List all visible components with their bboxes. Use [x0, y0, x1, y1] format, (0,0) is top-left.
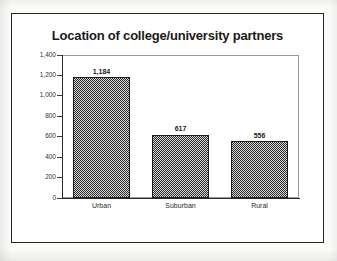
- x-axis-line: [62, 198, 300, 199]
- bar[interactable]: [152, 135, 209, 198]
- y-tick-label: 200: [16, 174, 56, 181]
- y-tick-mark: [57, 95, 62, 96]
- y-tick-mark: [57, 116, 62, 117]
- scanned-page: Location of college/university partners …: [0, 0, 337, 261]
- y-tick-mark: [57, 55, 62, 56]
- chart-frame: Location of college/university partners …: [11, 13, 324, 243]
- bar-group[interactable]: 556: [231, 55, 288, 198]
- category-label: Rural: [220, 202, 299, 209]
- y-tick-mark: [57, 157, 62, 158]
- y-axis: 02004006008001,0001,2001,400: [12, 14, 56, 244]
- x-axis-category-labels: UrbanSuburbanRural: [62, 202, 299, 216]
- bar[interactable]: [231, 141, 288, 198]
- y-tick-mark: [57, 177, 62, 178]
- bar-value-label: 617: [152, 125, 209, 132]
- bar[interactable]: [73, 77, 130, 198]
- y-tick-mark: [57, 75, 62, 76]
- y-tick-label: 0: [16, 195, 56, 202]
- y-tick-mark: [57, 198, 62, 199]
- bar-value-label: 1,184: [73, 68, 130, 75]
- bar-group[interactable]: 1,184: [73, 55, 130, 198]
- y-tick-label: 1,000: [16, 92, 56, 99]
- category-label: Suburban: [141, 202, 220, 209]
- bar-value-label: 556: [231, 132, 288, 139]
- category-label: Urban: [62, 202, 141, 209]
- y-tick-mark: [57, 136, 62, 137]
- y-tick-label: 600: [16, 133, 56, 140]
- bar-group[interactable]: 617: [152, 55, 209, 198]
- y-tick-label: 400: [16, 154, 56, 161]
- y-tick-label: 800: [16, 113, 56, 120]
- y-tick-label: 1,400: [16, 52, 56, 59]
- bars-layer: 1,184617556: [62, 55, 299, 198]
- chart-title: Location of college/university partners: [12, 28, 323, 43]
- y-tick-label: 1,200: [16, 72, 56, 79]
